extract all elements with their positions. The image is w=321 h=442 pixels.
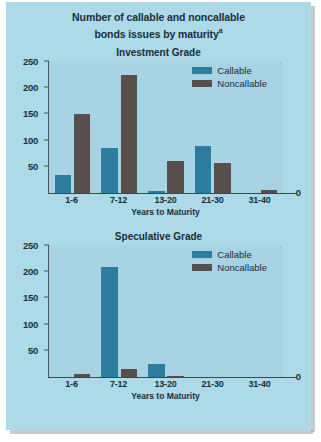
- x-tick-label: 13-20: [154, 379, 176, 389]
- y-tick-label: 250: [23, 55, 38, 66]
- y-axis-investment-grade: 50100150200250: [6, 61, 46, 193]
- chart-figure: Number of callable and noncallable bonds…: [6, 2, 311, 430]
- bar-callable-7-12: [101, 267, 117, 376]
- legend-swatch-callable-icon: [192, 67, 212, 74]
- bar-noncallable-1-6: [74, 114, 90, 193]
- y-tick-label: 150: [23, 108, 38, 119]
- y-tick-label: 50: [28, 345, 38, 356]
- legend-swatch-noncallable-icon: [192, 80, 212, 87]
- legend-investment-grade: Callable Noncallable: [192, 65, 267, 91]
- legend-label-noncallable: Noncallable: [217, 262, 267, 273]
- bar-noncallable-7-12: [121, 75, 137, 192]
- legend-label-callable: Callable: [217, 249, 251, 260]
- x-tick-label: 1-6: [65, 379, 77, 389]
- legend-item-callable: Callable: [192, 249, 267, 260]
- bar-noncallable-13-20: [167, 161, 183, 193]
- plot-speculative-grade: 50100150200250 Callable Noncallable 0 1-…: [6, 245, 301, 395]
- figure-title-footnote-marker: a: [219, 27, 223, 34]
- figure-title: Number of callable and noncallable bonds…: [6, 2, 311, 41]
- x-tick-label: 31-40: [248, 379, 270, 389]
- x-tick-label: 7-12: [110, 379, 127, 389]
- x-tick-label: 21-30: [201, 379, 223, 389]
- legend-item-noncallable: Noncallable: [192, 78, 267, 89]
- x-tick-label: 13-20: [154, 195, 176, 205]
- legend-item-callable: Callable: [192, 65, 267, 76]
- legend-label-callable: Callable: [217, 65, 251, 76]
- zero-label-speculative-grade: 0: [296, 370, 301, 381]
- x-axis-title-investment-grade: Years to Maturity: [48, 207, 283, 217]
- bar-callable-7-12: [101, 148, 117, 193]
- x-tick-label: 31-40: [248, 195, 270, 205]
- bar-noncallable-21-30: [214, 163, 230, 192]
- y-tick-label: 150: [23, 292, 38, 303]
- bar-callable-13-20: [148, 364, 164, 376]
- bar-noncallable-7-12: [121, 369, 137, 377]
- legend-speculative-grade: Callable Noncallable: [192, 249, 267, 275]
- y-tick-label: 100: [23, 134, 38, 145]
- y-tick-label: 100: [23, 318, 38, 329]
- legend-swatch-callable-icon: [192, 251, 212, 258]
- plot-investment-grade: 50100150200250 Callable Noncallable 0 1-…: [6, 61, 301, 211]
- x-tick-label: 21-30: [201, 195, 223, 205]
- x-tick-label: 1-6: [65, 195, 77, 205]
- figure-title-line1: Number of callable and noncallable: [72, 11, 245, 23]
- x-axis-title-speculative-grade: Years to Maturity: [48, 391, 283, 401]
- legend-label-noncallable: Noncallable: [217, 78, 267, 89]
- zero-label-investment-grade: 0: [296, 186, 301, 197]
- y-tick-label: 200: [23, 265, 38, 276]
- figure-title-line2: bonds issues by maturity: [94, 28, 218, 40]
- bar-callable-1-6: [55, 175, 71, 192]
- x-tick-label: 7-12: [110, 195, 127, 205]
- y-tick-label: 250: [23, 239, 38, 250]
- panel-title-investment-grade: Investment Grade: [6, 47, 311, 58]
- plot-area-investment-grade: Callable Noncallable: [48, 61, 283, 193]
- legend-swatch-noncallable-icon: [192, 264, 212, 271]
- legend-item-noncallable: Noncallable: [192, 262, 267, 273]
- y-tick-label: 200: [23, 81, 38, 92]
- panel-title-speculative-grade: Speculative Grade: [6, 231, 311, 242]
- bar-callable-21-30: [195, 146, 211, 192]
- y-axis-speculative-grade: 50100150200250: [6, 245, 46, 377]
- y-tick-label: 50: [28, 161, 38, 172]
- panel-speculative-grade: Speculative Grade 50100150200250 Callabl…: [6, 231, 311, 395]
- panel-investment-grade: Investment Grade 50100150200250 Callable…: [6, 47, 311, 211]
- plot-area-speculative-grade: Callable Noncallable: [48, 245, 283, 377]
